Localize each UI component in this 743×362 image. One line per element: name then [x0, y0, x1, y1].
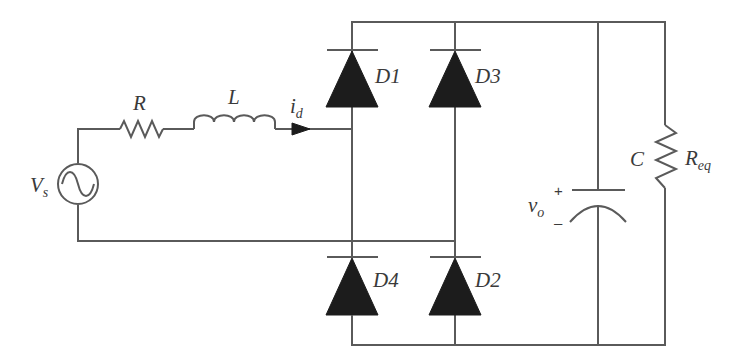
current-label: id: [290, 94, 304, 121]
resistor-label: R: [132, 91, 146, 115]
bridge-rectifier-circuit: Vs R L id D1 D4 D3 D2: [0, 0, 743, 362]
load-resistor-label: Req: [684, 146, 711, 173]
bottom-rail: [352, 188, 665, 345]
current-arrow-icon: [292, 123, 310, 135]
load-resistor-icon: [656, 125, 676, 188]
diode-d2-icon: [429, 257, 481, 315]
ac-source-icon: [58, 164, 98, 204]
input-wire-bottom: [78, 205, 455, 241]
diode-d3-icon: [429, 50, 481, 107]
capacitor-label: C: [630, 147, 645, 171]
capacitor-icon: [570, 22, 626, 345]
resistor-icon: [120, 121, 163, 137]
input-wire-top: [78, 129, 352, 163]
capacitor-plus-sign: +: [554, 182, 563, 199]
output-voltage-label: vo: [528, 193, 544, 220]
diode-d1-label: D1: [374, 64, 401, 88]
inductor-icon: [194, 115, 275, 129]
diode-d2-label: D2: [474, 268, 501, 292]
diode-d4-icon: [326, 257, 378, 315]
diode-d3-label: D3: [474, 64, 501, 88]
source-label: Vs: [30, 173, 49, 200]
inductor-label: L: [227, 85, 240, 109]
diode-d1-icon: [326, 50, 378, 107]
capacitor-minus-sign: –: [554, 214, 563, 231]
diode-d4-label: D4: [372, 268, 399, 292]
